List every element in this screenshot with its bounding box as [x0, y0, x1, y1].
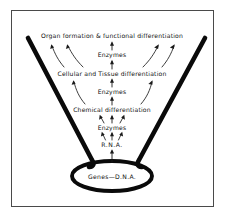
label-rna: R.N.A. [101, 141, 122, 148]
arrow-enzymes2-to-cellular [110, 78, 114, 87]
arrow-cellular-to-organ-curve-outer-right [162, 44, 175, 67]
arrow-cellular-to-enzymes3 [110, 60, 114, 69]
arrow-chemical-to-cellular-curve-right [141, 80, 153, 104]
label-enzymes-second: Enzymes [98, 88, 127, 96]
label-enzymes-third: Enzymes [98, 51, 127, 59]
arrow-rna-to-enzymes-right [119, 132, 124, 140]
arrow-rna-to-enzymes-center [110, 132, 114, 140]
arrow-cellular-to-organ-curve-inner-left [66, 44, 83, 67]
arrow-enzymes1-to-chemical-center [110, 115, 114, 123]
diagram-page: Organ formation & functional differentia… [0, 0, 225, 220]
arrow-cellular-to-organ-curve-outer-left [50, 44, 64, 67]
arrow-rna-to-enzymes-left [101, 132, 106, 140]
differentiation-cascade-diagram: Organ formation & functional differentia… [0, 0, 225, 220]
label-chemical-differentiation: Chemical differentiation [73, 106, 151, 113]
label-organ-formation: Organ formation & functional differentia… [41, 32, 183, 40]
label-genes-dna: Genes—D.N.A. [88, 173, 136, 180]
funnel-right-arm [138, 38, 205, 167]
arrow-chemical-to-enzymes2 [110, 96, 114, 105]
arrow-enzymes1-to-chemical-left [99, 115, 104, 123]
arrow-cellular-to-organ-curve-inner-right [143, 44, 159, 67]
arrow-enzymes3-to-organ [110, 41, 114, 50]
arrow-enzymes1-to-chemical-right [120, 115, 125, 123]
label-enzymes-first: Enzymes [98, 124, 127, 132]
label-cellular-tissue-differentiation: Cellular and Tissue differentiation [57, 70, 166, 77]
arrow-chemical-to-cellular-curve-left [72, 80, 85, 104]
